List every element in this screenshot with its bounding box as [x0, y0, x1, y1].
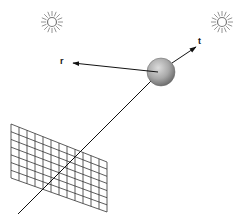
image-plane-grid [11, 124, 107, 212]
transmitted-ray-label: t [198, 37, 201, 46]
reflected-ray [73, 63, 158, 72]
sun-icon [41, 11, 63, 33]
primary-ray [18, 76, 156, 214]
reflected-ray-label: r [60, 57, 64, 66]
ray-tracing-diagram: r t [0, 0, 247, 224]
transmitted-ray [172, 47, 196, 63]
sphere [147, 58, 175, 86]
sun-icon [211, 11, 233, 33]
diagram-canvas [0, 0, 247, 224]
